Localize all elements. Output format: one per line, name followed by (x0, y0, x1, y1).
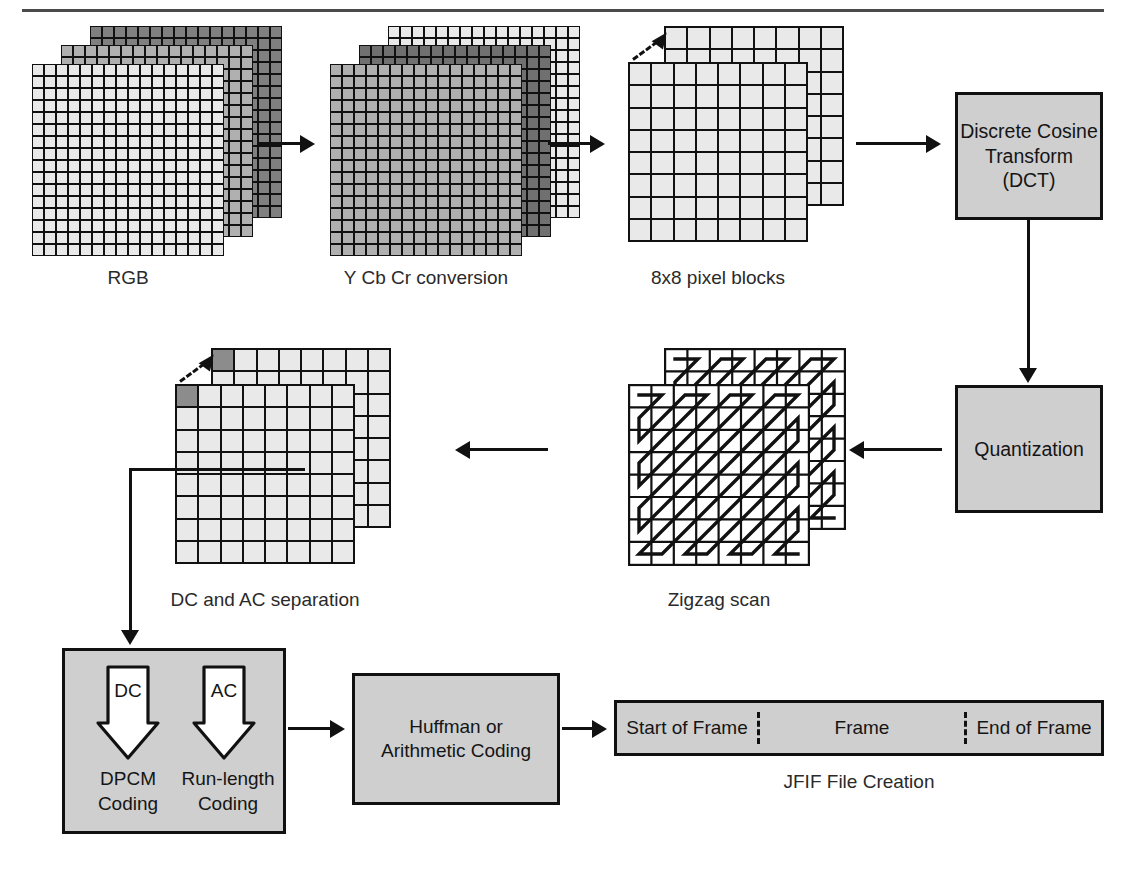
grid-cell (213, 233, 223, 243)
entropy-inputs-box[interactable]: DC AC DPCM Coding Run-length Coding (62, 648, 286, 834)
grid-cell (451, 125, 461, 135)
grid-cell (540, 202, 550, 212)
runlength-coding-label: Run-length Coding (171, 767, 285, 816)
grid-cell (711, 28, 731, 48)
rgb-caption: RGB (32, 267, 224, 289)
grid-cell (427, 233, 437, 243)
grid-cell (93, 125, 103, 135)
grid-cell (697, 198, 717, 218)
coding-box[interactable]: Huffman or Arithmetic Coding (352, 673, 560, 805)
grid-cell (456, 46, 466, 56)
grid-cell (463, 233, 473, 243)
grid-cell (81, 77, 91, 87)
grid-cell (331, 101, 341, 111)
grid-cell (487, 149, 497, 159)
grid-cell (439, 209, 449, 219)
grid-cell (439, 113, 449, 123)
grid-cell (511, 233, 521, 243)
grid-cell (189, 221, 199, 231)
grid-cell (786, 220, 806, 240)
grid-cell (259, 39, 269, 49)
quantization-box[interactable]: Quantization (955, 385, 1103, 513)
grid-cell (557, 51, 567, 61)
grid-cell (557, 195, 567, 205)
grid-cell (557, 147, 567, 157)
grid-cell (213, 245, 223, 255)
grid-cell (367, 209, 377, 219)
grid-cell (177, 431, 197, 451)
grid-cell (153, 89, 163, 99)
grid-cell (401, 27, 411, 37)
grid-cell (165, 209, 175, 219)
grid-cell (369, 506, 389, 526)
grid-cell (177, 173, 187, 183)
grid-cell (151, 27, 161, 37)
grid-cell (557, 111, 567, 121)
grid-cell (134, 46, 144, 56)
grid-cell (652, 86, 672, 106)
grid-cell (141, 221, 151, 231)
grid-cell (69, 233, 79, 243)
grid-cell (463, 185, 473, 195)
grid-cell (213, 197, 223, 207)
grid-cell (141, 137, 151, 147)
dct-box[interactable]: Discrete Cosine Transform (DCT) (955, 92, 1103, 220)
grid-cell (230, 178, 240, 188)
grid-cell (741, 86, 761, 106)
grid-cell (343, 209, 353, 219)
grid-cell (177, 161, 187, 171)
grid-cell (451, 245, 461, 255)
grid-cell (822, 95, 842, 115)
grid-cell (569, 171, 579, 181)
grid-cell (487, 197, 497, 207)
grid-cell (129, 77, 139, 87)
grid-cell (33, 209, 43, 219)
grid-cell (652, 153, 672, 173)
grid-cell (367, 185, 377, 195)
dcac-stack (175, 348, 425, 578)
grid-cell (177, 89, 187, 99)
grid-cell (487, 245, 497, 255)
grid-cell (259, 111, 269, 121)
grid-cell (511, 221, 521, 231)
grid-cell (331, 185, 341, 195)
grid-cell (487, 113, 497, 123)
grid-cell (105, 233, 115, 243)
grid-cell (408, 46, 418, 56)
grid-cell (117, 113, 127, 123)
grid-cell (129, 221, 139, 231)
grid-cell (199, 386, 219, 406)
grid-cell (499, 149, 509, 159)
grid-cell (259, 171, 269, 181)
grid-cell (741, 131, 761, 151)
grid-cell (153, 233, 163, 243)
grid-cell (288, 497, 308, 517)
grid-cell (33, 113, 43, 123)
grid-cell (213, 149, 223, 159)
grid-cell (271, 39, 281, 49)
grid-cell (105, 137, 115, 147)
grid-cell (45, 113, 55, 123)
grid-cell (311, 386, 331, 406)
grid-cell (57, 89, 67, 99)
grid-cell (557, 39, 567, 49)
grid-cell (480, 46, 490, 56)
grid-cell (230, 166, 240, 176)
grid-cell (331, 173, 341, 183)
grid-cell (439, 185, 449, 195)
grid-cell (230, 214, 240, 224)
grid-cell (367, 125, 377, 135)
grid-cell (379, 209, 389, 219)
grid-cell (271, 195, 281, 205)
jfif-bar[interactable]: Start of Frame Frame End of Frame (614, 700, 1104, 756)
grid-cell (57, 125, 67, 135)
zigzag-layer-front (628, 384, 810, 566)
grid-cell (81, 161, 91, 171)
grid-cell (367, 89, 377, 99)
grid-cell (487, 161, 497, 171)
grid-cell (741, 175, 761, 195)
grid-cell (425, 27, 435, 37)
grid-cell (413, 27, 423, 37)
grid-cell (311, 408, 331, 428)
grid-cell (201, 245, 211, 255)
